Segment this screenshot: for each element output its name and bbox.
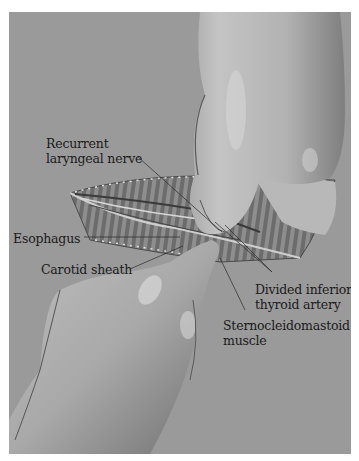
label-divided-inferior-thyroid-artery: Divided inferior thyroid artery bbox=[255, 282, 351, 312]
label-sternocleidomastoid-muscle: Sternocleidomastoid muscle bbox=[223, 318, 350, 348]
label-esophagus: Esophagus bbox=[13, 231, 80, 246]
label-recurrent-laryngeal-nerve: Recurrent laryngeal nerve bbox=[46, 136, 142, 166]
label-carotid-sheath: Carotid sheath bbox=[41, 262, 132, 277]
illustration-frame: Recurrent laryngeal nerve Esophagus Caro… bbox=[9, 12, 351, 454]
